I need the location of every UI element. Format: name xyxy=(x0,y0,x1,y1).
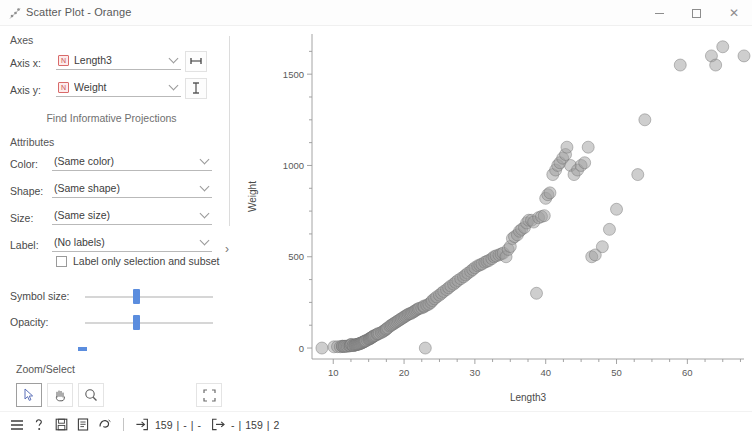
axis-y-label: Axis y: xyxy=(10,84,41,96)
help-icon[interactable] xyxy=(28,415,50,435)
cursor-arrow-icon xyxy=(23,388,35,402)
attributes-group-title: Attributes xyxy=(10,136,54,148)
maximize-button[interactable] xyxy=(678,0,715,26)
vertical-axis-icon xyxy=(191,81,201,97)
numeric-variable-icon: N xyxy=(58,55,69,66)
color-label: Color: xyxy=(10,158,38,170)
svg-text:Weight: Weight xyxy=(247,181,258,212)
title-bar: Scatter Plot - Orange ✕ xyxy=(0,0,752,26)
input-sep1: | xyxy=(177,419,180,431)
label-value: (No labels) xyxy=(54,236,105,248)
shape-combobox[interactable]: (Same shape) xyxy=(52,179,212,198)
scatter-plot-icon xyxy=(8,6,22,20)
report-icon[interactable] xyxy=(72,415,94,435)
scatter-plot-canvas[interactable]: 050010001500102030405060Length3Weight xyxy=(236,26,752,411)
axis-x-value: Length3 xyxy=(74,54,112,66)
window-title: Scatter Plot - Orange xyxy=(26,6,131,18)
minimize-icon xyxy=(655,13,664,14)
svg-text:Length3: Length3 xyxy=(510,392,547,403)
reset-zoom-tool[interactable] xyxy=(196,383,222,407)
chevron-down-icon xyxy=(169,54,179,64)
label-only-selection-checkbox[interactable]: Label only selection and subset xyxy=(56,255,220,267)
axis-y-combobox[interactable]: N Weight xyxy=(56,78,181,97)
chevron-down-icon xyxy=(200,236,210,246)
size-label: Size: xyxy=(10,212,33,224)
axis-x-combobox[interactable]: N Length3 xyxy=(56,51,181,70)
clipboard-icon[interactable] xyxy=(94,415,116,435)
color-value: (Same color) xyxy=(54,155,114,167)
minimize-button[interactable] xyxy=(641,0,678,26)
axis-y-value: Weight xyxy=(74,81,107,93)
symbol-size-slider[interactable] xyxy=(85,296,213,298)
close-icon: ✕ xyxy=(729,7,739,19)
status-separator xyxy=(123,418,124,431)
label-label: Label: xyxy=(10,239,39,251)
color-combobox[interactable]: (Same color) xyxy=(52,152,212,171)
svg-text:1500: 1500 xyxy=(283,69,304,80)
shape-value: (Same shape) xyxy=(54,182,120,194)
checkbox-box xyxy=(56,256,67,267)
horizontal-axis-icon xyxy=(189,56,203,68)
output-count: 159 xyxy=(245,419,263,431)
close-button[interactable]: ✕ xyxy=(715,0,752,26)
svg-text:60: 60 xyxy=(682,367,693,378)
chevron-down-icon xyxy=(200,209,210,219)
splitter-line xyxy=(229,36,230,226)
opacity-label: Opacity: xyxy=(10,316,49,328)
axes-group-title: Axes xyxy=(10,34,33,46)
input-arrow-icon xyxy=(131,415,153,435)
svg-text:50: 50 xyxy=(611,367,622,378)
panel-splitter[interactable]: › xyxy=(222,26,236,411)
collapse-panel-arrow-icon[interactable]: › xyxy=(225,242,229,256)
input-count: 159 xyxy=(155,419,173,431)
svg-text:10: 10 xyxy=(328,367,339,378)
axis-x-orientation-button[interactable] xyxy=(185,51,207,72)
symbol-size-slider-handle[interactable] xyxy=(133,289,140,304)
numeric-variable-icon: N xyxy=(58,82,69,93)
label-combobox[interactable]: (No labels) xyxy=(52,233,212,252)
output-sep1: | xyxy=(239,419,242,431)
output-sep2: | xyxy=(267,419,270,431)
magnifier-icon xyxy=(84,388,98,402)
opacity-slider-handle[interactable] xyxy=(133,315,140,330)
maximize-icon xyxy=(692,9,701,18)
status-bar: 159 | - | - - | 159 | 2 xyxy=(0,411,752,437)
pan-tool[interactable] xyxy=(47,383,73,407)
output-dash: - xyxy=(231,419,235,431)
size-combobox[interactable]: (Same size) xyxy=(52,206,212,225)
chevron-down-icon xyxy=(200,155,210,165)
opacity-slider[interactable] xyxy=(85,322,213,324)
menu-icon[interactable] xyxy=(6,415,28,435)
find-informative-projections-link[interactable]: Find Informative Projections xyxy=(44,112,179,124)
output-extra: 2 xyxy=(274,419,280,431)
output-arrow-icon xyxy=(207,415,229,435)
svg-text:0: 0 xyxy=(299,343,304,354)
input-sep2: | xyxy=(191,419,194,431)
axis-y-orientation-button[interactable] xyxy=(185,78,207,99)
expand-icon xyxy=(203,389,216,402)
save-icon[interactable] xyxy=(50,415,72,435)
size-value: (Same size) xyxy=(54,209,110,221)
jitter-slider-handle[interactable] xyxy=(78,347,87,351)
input-dash1: - xyxy=(183,419,187,431)
select-tool[interactable] xyxy=(16,383,42,407)
svg-text:40: 40 xyxy=(540,367,551,378)
label-only-selection-text: Label only selection and subset xyxy=(73,255,220,267)
svg-text:1000: 1000 xyxy=(283,160,304,171)
zoom-select-group-title: Zoom/Select xyxy=(16,363,75,375)
chevron-down-icon xyxy=(200,182,210,192)
axis-x-label: Axis x: xyxy=(10,57,41,69)
shape-label: Shape: xyxy=(10,185,43,197)
control-panel: Axes Axis x: N Length3 Axis y: N Weight xyxy=(0,26,222,411)
symbol-size-label: Symbol size: xyxy=(10,290,70,302)
chevron-down-icon xyxy=(169,81,179,91)
zoom-tool[interactable] xyxy=(78,383,104,407)
input-dash2: - xyxy=(198,419,202,431)
plot-svg: 050010001500102030405060Length3Weight xyxy=(236,26,752,411)
hand-icon xyxy=(54,388,67,402)
svg-text:500: 500 xyxy=(288,251,304,262)
svg-text:20: 20 xyxy=(399,367,410,378)
scatter-plot-window: Scatter Plot - Orange ✕ Axes Axis x: N L… xyxy=(0,0,752,437)
svg-text:30: 30 xyxy=(470,367,481,378)
